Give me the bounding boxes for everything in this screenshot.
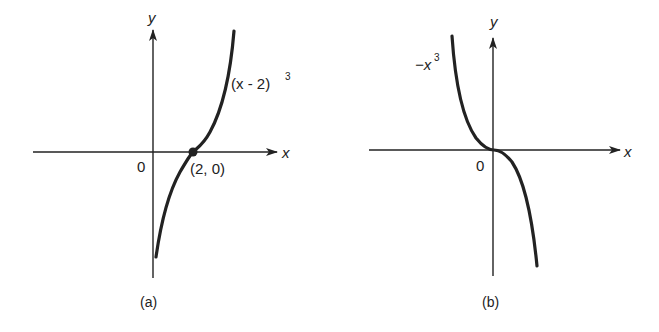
y-label-b: y [489, 13, 499, 30]
x-label-b: x [623, 143, 632, 160]
curve-label-a: (x - 2) [231, 75, 270, 92]
origin-label-a: 0 [137, 158, 145, 175]
panel-label-a: (a) [140, 294, 157, 310]
panel-label-b: (b) [482, 294, 499, 310]
x-label-a: x [281, 144, 290, 161]
point-label-a: (2, 0) [190, 160, 225, 177]
curve-b [452, 36, 537, 266]
figure: x y 0 (2, 0) (x - 2) 3 (a) x y 0 −x 3 (b… [0, 0, 659, 332]
origin-label-b: 0 [476, 157, 484, 174]
point-2-0 [189, 148, 198, 157]
y-label-a: y [147, 9, 157, 26]
curve-exp-a: 3 [285, 71, 291, 82]
panel-b: x y 0 −x 3 (b) [369, 13, 632, 310]
curve-label-b: −x [415, 56, 432, 73]
curve-a [156, 31, 234, 257]
curve-exp-b: 3 [434, 52, 440, 63]
panel-a: x y 0 (2, 0) (x - 2) 3 (a) [33, 9, 291, 310]
